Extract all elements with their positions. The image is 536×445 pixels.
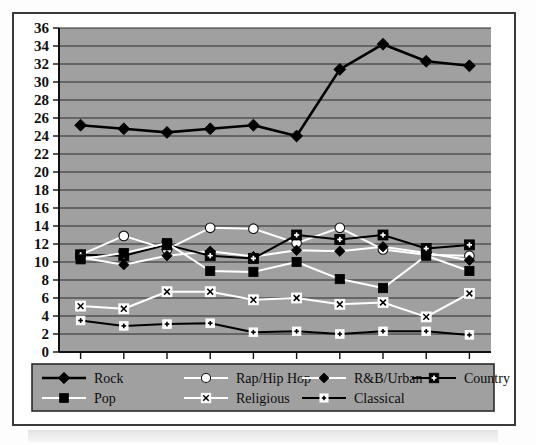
y-axis-tick-label: 34	[34, 38, 50, 54]
series-marker	[119, 231, 129, 241]
y-axis-ticks: 024681012141618202224262830323436	[34, 20, 59, 360]
series-marker	[335, 275, 344, 284]
y-axis-tick-label: 4	[42, 308, 50, 324]
y-axis-tick-label: 12	[34, 236, 49, 252]
series-marker	[464, 289, 474, 299]
series-marker	[206, 319, 215, 328]
legend-label: Rock	[94, 371, 124, 386]
series-marker	[119, 248, 128, 257]
y-axis-tick-label: 18	[34, 182, 49, 198]
series-marker	[248, 253, 258, 263]
page-edge-shadow	[28, 430, 498, 442]
y-axis-tick-label: 26	[34, 110, 50, 126]
series-marker	[206, 266, 215, 275]
series-marker	[335, 223, 345, 233]
series-marker	[248, 295, 258, 305]
series-marker	[120, 322, 129, 331]
chart-svg: 024681012141618202224262830323436 199920…	[14, 14, 514, 424]
series-marker	[162, 287, 172, 297]
series-marker	[292, 257, 301, 266]
legend-label: Rap/Hip Hop	[236, 371, 311, 386]
y-axis-tick-label: 20	[34, 164, 49, 180]
legend-label: Religious	[236, 391, 290, 406]
y-axis-tick-label: 36	[34, 20, 50, 36]
series-marker	[429, 373, 439, 383]
series-marker	[292, 327, 301, 336]
series-marker	[201, 373, 210, 382]
line-chart: 024681012141618202224262830323436 199920…	[14, 14, 514, 424]
series-marker	[205, 223, 215, 233]
y-axis-tick-label: 28	[34, 92, 49, 108]
series-marker	[60, 394, 69, 403]
series-marker	[119, 304, 129, 314]
series-marker	[378, 284, 387, 293]
legend-label: Pop	[94, 391, 116, 406]
series-marker	[465, 266, 474, 275]
series-marker	[76, 255, 85, 264]
y-axis-tick-label: 16	[34, 200, 50, 216]
series-marker	[320, 394, 328, 402]
series-marker	[335, 299, 345, 309]
series-marker	[201, 393, 211, 403]
series-marker	[249, 224, 259, 234]
series-marker	[379, 327, 388, 336]
series-marker	[249, 328, 258, 337]
y-axis-tick-label: 10	[34, 254, 49, 270]
legend-label: Country	[464, 371, 510, 386]
series-marker	[421, 312, 431, 322]
screenshot-root: 024681012141618202224262830323436 199920…	[0, 0, 536, 445]
series-marker	[249, 267, 258, 276]
series-marker	[465, 331, 474, 340]
series-marker	[422, 251, 431, 260]
y-axis-tick-label: 30	[34, 74, 49, 90]
series-marker	[292, 293, 302, 303]
series-marker	[205, 251, 215, 261]
series-marker	[76, 316, 85, 325]
y-axis-tick-label: 0	[42, 344, 50, 360]
series-marker	[292, 230, 302, 240]
y-axis-tick-label: 6	[42, 290, 50, 306]
series-marker	[422, 327, 431, 336]
series-marker	[163, 320, 172, 329]
series-marker	[162, 239, 171, 248]
series-marker	[336, 330, 345, 339]
legend-label: Classical	[354, 391, 405, 406]
y-axis-tick-label: 8	[42, 272, 50, 288]
chart-legend: RockRap/Hip HopR&B/UrbanCountryPopReligi…	[32, 364, 510, 411]
y-axis-tick-label: 32	[34, 56, 49, 72]
series-marker	[464, 240, 474, 250]
y-axis-tick-label: 24	[34, 128, 50, 144]
y-axis-tick-label: 22	[34, 146, 49, 162]
series-marker	[378, 298, 388, 308]
series-marker	[378, 230, 388, 240]
series-marker	[205, 287, 215, 297]
y-axis-tick-label: 2	[42, 326, 50, 342]
series-marker	[335, 235, 345, 245]
y-axis-tick-label: 14	[34, 218, 50, 234]
series-marker	[76, 301, 86, 311]
